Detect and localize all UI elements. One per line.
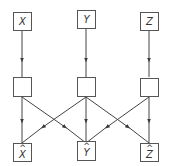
edge-h2-xhat-tail — [22, 126, 44, 143]
edge-h3-yhat — [107, 97, 149, 127]
edge-h2-zhat-tail — [127, 126, 149, 143]
edge-h2-zhat — [86, 97, 128, 127]
edge-h2-xhat — [43, 97, 86, 127]
node-xhat-label: X — [18, 149, 27, 160]
node-h3 — [141, 79, 159, 97]
edge-h1-yhat-tail — [64, 126, 86, 143]
input-layer: X Y Z — [14, 11, 159, 31]
node-yhat-label: Y — [83, 147, 90, 158]
node-x-label: X — [18, 16, 27, 27]
edge-h3-yhat-tail — [86, 126, 108, 143]
node-y: Y — [78, 11, 96, 29]
hidden-layer — [14, 78, 159, 97]
output-layer: ^ X ^ Y ^ Z — [14, 142, 159, 162]
node-h2 — [78, 78, 96, 97]
node-h1 — [14, 78, 32, 97]
node-zhat-label: Z — [145, 149, 154, 160]
output-edges — [22, 97, 149, 143]
node-x: X — [14, 13, 32, 31]
node-z-label: Z — [145, 16, 154, 27]
node-zhat: ^ Z — [141, 144, 159, 162]
node-xhat: ^ X — [14, 144, 32, 162]
node-yhat: ^ Y — [78, 142, 96, 161]
node-z: Z — [141, 13, 159, 31]
network-diagram: X Y Z ^ X ^ Y ^ Z — [0, 0, 170, 166]
edge-h1-yhat — [22, 97, 65, 127]
node-y-label: Y — [83, 14, 90, 25]
input-edges — [22, 28, 149, 77]
